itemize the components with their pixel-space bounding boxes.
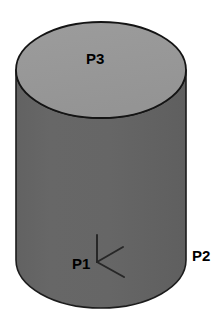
cylinder-top-face — [16, 22, 186, 118]
cylinder-figure: P3 P1 P2 — [0, 0, 223, 335]
surface-label-p2: P2 — [192, 248, 210, 263]
surface-label-p3: P3 — [86, 51, 104, 66]
cylinder-illustration — [0, 0, 223, 335]
surface-label-p1: P1 — [72, 256, 90, 271]
